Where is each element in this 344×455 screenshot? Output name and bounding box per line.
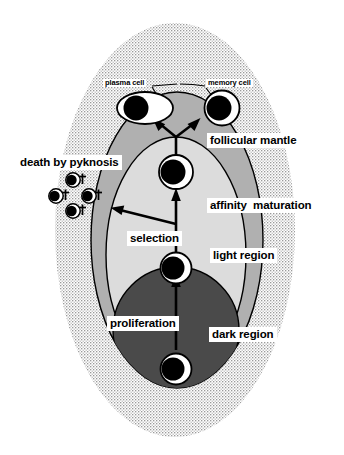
plasma-cell: [117, 92, 173, 124]
centrocyte-upper: [159, 155, 193, 189]
memory-cell-nucleus: [207, 96, 232, 121]
follicular-mantle-label: follicular mantle: [207, 133, 300, 148]
death-by-pyknosis-label: death by pyknosis: [17, 155, 122, 170]
diagram-canvas: [0, 0, 344, 455]
proliferation-label: proliferation: [107, 316, 179, 331]
centroblast-nucleus: [162, 358, 185, 381]
selection-label: selection: [127, 231, 182, 246]
memory-cell: [205, 91, 240, 126]
centrocyte-lower: [161, 253, 192, 284]
germinal-center-diagram: plasma cell memory cell follicular mantl…: [0, 0, 344, 455]
centrocyte-upper-nucleus: [161, 160, 186, 185]
plasma-cell-label: plasma cell: [103, 79, 146, 87]
plasma-cell-nucleus: [124, 96, 149, 121]
centroblast: [161, 354, 192, 385]
centrocyte-lower-nucleus: [162, 257, 185, 280]
affinity-maturation-label: affinity maturation: [207, 198, 315, 213]
dark-region-label: dark region: [209, 327, 277, 342]
memory-cell-label: memory cell: [206, 79, 253, 87]
light-region-label: light region: [210, 248, 277, 263]
